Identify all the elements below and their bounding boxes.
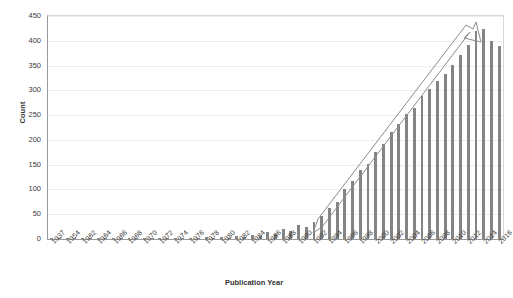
y-tick-label: 300 xyxy=(1,85,41,94)
bar xyxy=(421,96,424,239)
x-axis-tick-labels: 1937195419621964196619681970197219741976… xyxy=(47,240,502,280)
y-tick-label: 250 xyxy=(1,110,41,119)
bar xyxy=(405,114,408,239)
bar xyxy=(482,29,485,239)
y-tick-label: 200 xyxy=(1,134,41,143)
bar xyxy=(498,46,501,239)
bar xyxy=(328,208,331,239)
y-tick-label: 100 xyxy=(1,184,41,193)
bar xyxy=(374,152,377,239)
bar xyxy=(459,55,462,239)
plot-area xyxy=(47,15,504,240)
bar-series xyxy=(48,16,503,239)
bar xyxy=(397,124,400,239)
bar xyxy=(444,74,447,240)
bar xyxy=(467,45,470,239)
bar xyxy=(451,65,454,239)
y-tick-label: 0 xyxy=(1,234,41,243)
y-tick-label: 400 xyxy=(1,35,41,44)
bar xyxy=(343,189,346,239)
bar xyxy=(490,41,493,239)
bar xyxy=(382,144,385,239)
y-axis-tick-labels: 050100150200250300350400450 xyxy=(0,0,44,298)
y-tick-label: 150 xyxy=(1,159,41,168)
y-tick-label: 350 xyxy=(1,60,41,69)
bar xyxy=(475,31,478,239)
bar xyxy=(359,170,362,239)
bar xyxy=(428,89,431,239)
bar xyxy=(436,81,439,239)
y-tick-label: 450 xyxy=(1,11,41,20)
x-axis-title: Publication Year xyxy=(0,278,508,287)
bar xyxy=(390,132,393,239)
y-tick-label: 50 xyxy=(1,209,41,218)
bar xyxy=(413,108,416,239)
